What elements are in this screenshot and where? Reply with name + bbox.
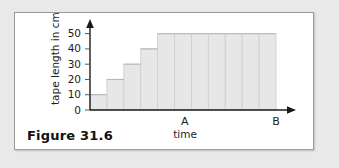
- bar-2: [107, 79, 124, 110]
- bar-8: [208, 34, 225, 110]
- y-tick-label: 50: [68, 27, 81, 39]
- bar-7: [191, 34, 208, 110]
- y-axis-title: tape length in cm: [49, 13, 61, 105]
- y-tick-label: 0: [74, 104, 81, 116]
- y-tick-label: 20: [68, 73, 81, 85]
- bar-4: [141, 49, 158, 110]
- x-marker-B: B: [272, 115, 280, 128]
- y-tick-label: 30: [68, 58, 81, 70]
- axis-markers: AB: [181, 115, 280, 128]
- bar-6: [175, 34, 192, 110]
- x-axis-arrow-icon: [287, 106, 296, 114]
- y-axis: 01020304050: [68, 19, 94, 116]
- y-axis-arrow-icon: [86, 19, 94, 28]
- x-axis-title: time: [173, 128, 197, 140]
- figure-panel: 01020304050 tape length in cm time AB Fi…: [14, 12, 314, 150]
- bar-11: [259, 34, 276, 110]
- bar-1: [90, 95, 107, 110]
- bar-9: [225, 34, 242, 110]
- figure-caption: Figure 31.6: [27, 128, 113, 143]
- bar-10: [242, 34, 259, 110]
- bar-5: [158, 34, 175, 110]
- x-marker-A: A: [181, 115, 189, 128]
- bar-3: [124, 64, 141, 110]
- bar-series: [90, 34, 276, 110]
- y-tick-label: 10: [68, 88, 81, 100]
- y-tick-label: 40: [68, 42, 81, 54]
